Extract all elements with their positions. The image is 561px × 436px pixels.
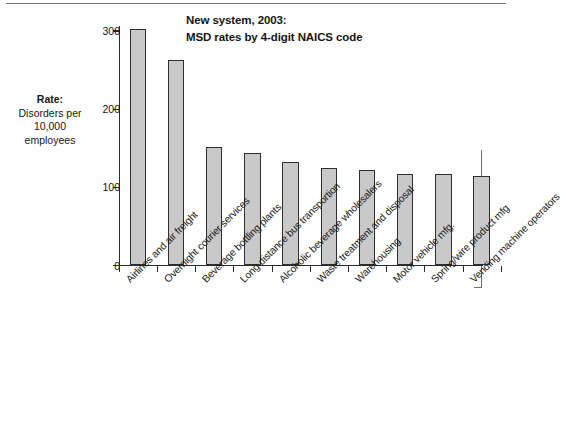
y-axis-line xyxy=(119,26,120,266)
x-tick-mark xyxy=(424,266,425,272)
bar xyxy=(282,162,299,266)
x-tick-mark xyxy=(272,266,273,272)
y-tick-label: 300 xyxy=(94,25,120,37)
x-tick-mark xyxy=(501,266,502,272)
x-tick-mark xyxy=(119,266,120,272)
x-tick-mark xyxy=(157,266,158,272)
x-tick-mark xyxy=(233,266,234,272)
bar xyxy=(130,29,147,266)
y-tick-label: 0 xyxy=(94,260,120,272)
y-tick-label: 100 xyxy=(94,181,120,193)
x-tick-mark xyxy=(463,266,464,272)
x-tick-mark xyxy=(195,266,196,272)
x-tick-mark xyxy=(310,266,311,272)
x-tick-mark xyxy=(386,266,387,272)
y-tick-label: 200 xyxy=(94,103,120,115)
x-tick-mark xyxy=(348,266,349,272)
bar xyxy=(206,147,223,265)
bar xyxy=(244,153,261,266)
